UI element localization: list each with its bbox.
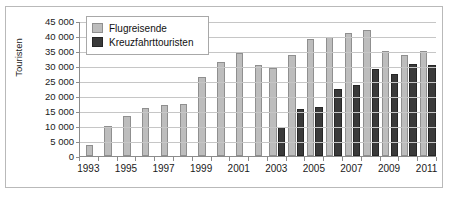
x-tick-label-1993: 1993 — [77, 163, 99, 174]
y-tick-label: 45 000 — [45, 17, 74, 27]
x-tick-mark — [211, 157, 212, 161]
bar-flugreisende-1993 — [86, 145, 93, 156]
legend-swatch-icon-kreuzfahrttouristen — [92, 37, 103, 47]
y-gridline — [80, 112, 436, 113]
y-gridline — [80, 82, 436, 83]
x-tick-label-2009: 2009 — [378, 163, 400, 174]
legend-item-kreuzfahrttouristen: Kreuzfahrttouristen — [92, 35, 203, 49]
y-tick-label: 5 000 — [50, 137, 74, 147]
bar-flugreisende-2010 — [401, 55, 408, 156]
x-tick-mark — [342, 157, 343, 161]
x-tick-mark — [417, 157, 418, 161]
x-tick-mark — [286, 157, 287, 161]
x-axis-layer: 1993199519971999200120032005200720092011 — [79, 157, 436, 187]
y-tick-mark — [76, 52, 80, 53]
legend-label-kreuzfahrttouristen: Kreuzfahrttouristen — [109, 37, 194, 48]
bar-flugreisende-1995 — [123, 116, 130, 156]
legend-label-flugreisende: Flugreisende — [109, 23, 167, 34]
bar-flugreisende-1996 — [142, 108, 149, 156]
x-tick-mark — [98, 157, 99, 161]
x-tick-mark — [436, 157, 437, 161]
y-gridline — [80, 142, 436, 143]
y-tick-label: 25 000 — [45, 77, 74, 87]
legend-swatch-icon-flugreisende — [92, 23, 103, 33]
x-tick-mark — [117, 157, 118, 161]
y-gridline — [80, 97, 436, 98]
bar-kreuzfahrttouristen-2005 — [315, 107, 322, 157]
y-axis-labels: 05 00010 00015 00020 00025 00030 00035 0… — [26, 0, 74, 199]
y-tick-mark — [76, 82, 80, 83]
x-tick-label-2001: 2001 — [228, 163, 250, 174]
x-tick-mark — [361, 157, 362, 161]
y-gridline — [80, 127, 436, 128]
bar-flugreisende-1999 — [198, 77, 205, 157]
x-tick-label-2003: 2003 — [265, 163, 287, 174]
x-tick-mark — [173, 157, 174, 161]
y-gridline — [80, 67, 436, 68]
x-tick-mark — [135, 157, 136, 161]
bar-flugreisende-2004 — [288, 55, 295, 156]
y-tick-label: 15 000 — [45, 107, 74, 117]
x-tick-label-2007: 2007 — [340, 163, 362, 174]
y-tick-mark — [76, 142, 80, 143]
x-tick-mark — [79, 157, 80, 161]
x-tick-mark — [267, 157, 268, 161]
legend-item-flugreisende: Flugreisende — [92, 21, 203, 35]
bar-kreuzfahrttouristen-2007 — [353, 85, 360, 156]
y-tick-label: 40 000 — [45, 32, 74, 42]
y-tick-mark — [76, 112, 80, 113]
bar-kreuzfahrttouristen-2006 — [334, 89, 341, 156]
y-tick-label: 20 000 — [45, 92, 74, 102]
x-tick-label-2011: 2011 — [416, 163, 438, 174]
y-axis-title: Touristen — [13, 12, 24, 104]
y-tick-label: 0 — [69, 152, 74, 162]
bar-kreuzfahrttouristen-2004 — [297, 109, 304, 156]
x-tick-mark — [380, 157, 381, 161]
y-tick-label: 10 000 — [45, 122, 74, 132]
bar-kreuzfahrttouristen-2009 — [391, 74, 398, 156]
y-tick-mark — [76, 22, 80, 23]
x-tick-mark — [192, 157, 193, 161]
chart-figure: 05 00010 00015 00020 00025 00030 00035 0… — [0, 0, 449, 199]
x-tick-label-1999: 1999 — [190, 163, 212, 174]
y-tick-mark — [76, 67, 80, 68]
x-tick-mark — [304, 157, 305, 161]
x-tick-mark — [323, 157, 324, 161]
bar-flugreisende-2008 — [363, 30, 370, 156]
x-tick-mark — [229, 157, 230, 161]
chart-legend: Flugreisende Kreuzfahrttouristen — [86, 16, 209, 55]
y-tick-label: 30 000 — [45, 62, 74, 72]
y-tick-mark — [76, 37, 80, 38]
x-tick-mark — [398, 157, 399, 161]
y-tick-label: 35 000 — [45, 47, 74, 57]
bar-flugreisende-1994 — [104, 126, 111, 156]
y-tick-mark — [76, 127, 80, 128]
x-tick-label-1997: 1997 — [152, 163, 174, 174]
bar-flugreisende-2001 — [236, 53, 243, 156]
x-tick-label-1995: 1995 — [115, 163, 137, 174]
y-tick-mark — [76, 97, 80, 98]
x-tick-label-2005: 2005 — [303, 163, 325, 174]
x-tick-mark — [154, 157, 155, 161]
x-tick-mark — [248, 157, 249, 161]
